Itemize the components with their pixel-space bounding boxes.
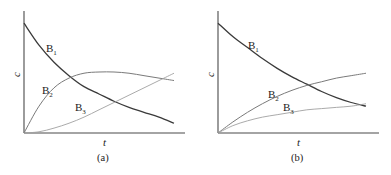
curves: [218, 23, 366, 133]
panel-caption: (b): [291, 152, 304, 164]
series-line-b1: [218, 23, 366, 106]
series-line-b1: [24, 23, 174, 123]
panel-caption: (a): [97, 152, 109, 164]
series-label-b3: B3: [75, 101, 86, 116]
x-axis-label: t: [103, 136, 107, 148]
series-label-b2: B2: [268, 88, 279, 103]
y-axis-label: c: [204, 72, 216, 77]
series-line-b2: [24, 72, 174, 133]
panel-b: c t (b) B1 B2 B3: [204, 11, 379, 164]
kinetics-figure: c t (a) B1 B2 B3 c t (b) B1 B2 B3: [0, 0, 391, 175]
y-axis-label: c: [10, 72, 22, 77]
x-axis-label: t: [297, 136, 301, 148]
series-line-b2: [218, 73, 366, 133]
panel-a: c t (a) B1 B2 B3: [10, 11, 185, 164]
series-line-b3: [24, 73, 174, 133]
curves: [24, 23, 174, 133]
series-label-b2: B2: [42, 84, 53, 99]
